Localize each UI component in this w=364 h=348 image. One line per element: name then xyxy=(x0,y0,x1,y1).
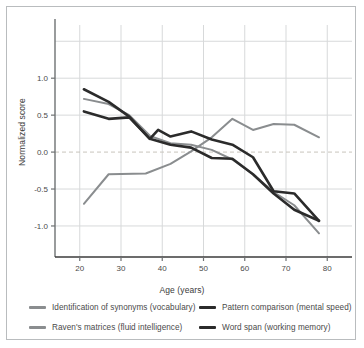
legend-item-pattern-comparison[interactable]: Pattern comparison (mental speed) xyxy=(199,303,352,312)
legend-item-vocabulary[interactable]: Identification of synonyms (vocabulary) xyxy=(29,303,195,312)
legend-item-word-span[interactable]: Word span (working memory) xyxy=(199,323,331,332)
x-tick-label: 50 xyxy=(199,264,208,273)
x-tick-label: 20 xyxy=(75,264,84,273)
x-tick-label: 30 xyxy=(117,264,126,273)
y-tick-label: 1.0 xyxy=(37,74,49,83)
y-tick-label: -0.5 xyxy=(34,185,48,194)
y-tick-label: 0.5 xyxy=(37,111,49,120)
plot-area: 1.00.50.0-0.5-1.020304050607080 xyxy=(7,7,357,275)
legend-label-ravens: Raven's matrices (fluid intelligence) xyxy=(52,323,182,332)
chart-legend: Identification of synonyms (vocabulary) … xyxy=(7,303,357,343)
x-tick-label: 60 xyxy=(240,264,249,273)
x-axis-title: Age (years) xyxy=(7,285,357,295)
series-line-word-span-working-memory xyxy=(84,111,319,220)
chart-figure: 1.00.50.0-0.5-1.020304050607080 Normaliz… xyxy=(6,6,356,340)
y-tick-label: -1.0 xyxy=(34,222,48,231)
y-tick-label: 0.0 xyxy=(37,148,49,157)
legend-label-word-span: Word span (working memory) xyxy=(222,323,331,332)
x-tick-label: 80 xyxy=(323,264,332,273)
legend-item-ravens[interactable]: Raven's matrices (fluid intelligence) xyxy=(29,323,182,332)
legend-label-pattern-comparison: Pattern comparison (mental speed) xyxy=(222,303,352,312)
x-tick-label: 40 xyxy=(158,264,167,273)
legend-label-vocabulary: Identification of synonyms (vocabulary) xyxy=(52,303,195,312)
x-tick-label: 70 xyxy=(282,264,291,273)
legend-swatch-word-span xyxy=(199,326,216,329)
legend-swatch-ravens xyxy=(29,326,46,328)
legend-swatch-vocabulary xyxy=(29,306,46,308)
legend-swatch-pattern-comparison xyxy=(199,306,216,309)
chart-svg: 1.00.50.0-0.5-1.020304050607080 xyxy=(7,7,357,275)
y-axis-title: Normalized score xyxy=(17,87,27,177)
